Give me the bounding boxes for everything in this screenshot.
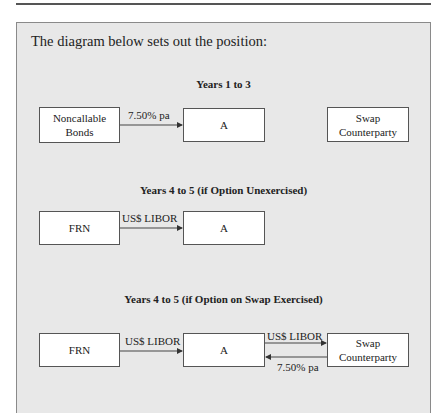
arrows-layer bbox=[0, 0, 439, 405]
